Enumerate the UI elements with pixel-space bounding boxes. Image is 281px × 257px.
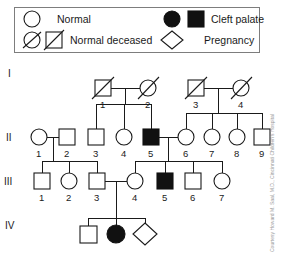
individual-III-4-circle[interactable] (127, 173, 143, 189)
individual-III-5-square-affected[interactable] (157, 173, 173, 189)
legend-diamond-open-icon (161, 31, 183, 49)
pedigree-diagram: Normal Normal deceased Cleft palate Preg… (0, 0, 281, 257)
individual-id-II-7: 7 (209, 148, 214, 159)
generation-label-I: I (8, 68, 11, 79)
individual-II-6-circle[interactable] (178, 129, 194, 145)
individual-id-II-6: 6 (183, 148, 188, 159)
generation-label-II: II (6, 132, 12, 143)
individual-id-II-1: 1 (36, 148, 41, 159)
individual-III-7-circle[interactable] (214, 173, 230, 189)
individual-II-2-square[interactable] (59, 129, 75, 145)
individual-II-9-square[interactable] (254, 129, 270, 145)
individual-id-I-1: 1 (100, 99, 105, 110)
legend-circle-filled-icon (164, 11, 180, 27)
individual-id-II-5: 5 (148, 148, 153, 159)
individual-II-3-square[interactable] (88, 129, 104, 145)
credit-text: Courtesy Howard M. Saal, M.D., Cincinnat… (269, 114, 275, 252)
legend-label-normal: Normal (57, 13, 91, 25)
individual-IV-1-square[interactable] (80, 226, 97, 243)
individual-id-III-6: 6 (190, 192, 195, 203)
legend-label-pregnancy: Pregnancy (204, 34, 255, 46)
individual-II-7-circle[interactable] (204, 129, 220, 145)
generation-II-group: 1 2 3 4 5 6 7 8 9 (31, 129, 270, 159)
individual-id-I-3: 3 (193, 99, 198, 110)
generation-label-III: III (4, 176, 12, 187)
individual-id-III-4: 4 (132, 192, 137, 203)
individual-id-I-4: 4 (238, 99, 243, 110)
generation-III-group: 1 2 3 4 5 6 7 (34, 173, 230, 203)
individual-id-III-1: 1 (39, 192, 44, 203)
legend-label-cleft-palate: Cleft palate (211, 13, 264, 25)
individual-id-III-7: 7 (219, 192, 224, 203)
individual-id-III-2: 2 (66, 192, 71, 203)
individual-III-1-square[interactable] (34, 173, 50, 189)
individual-id-II-3: 3 (93, 148, 98, 159)
legend-label-normal-deceased: Normal deceased (70, 34, 152, 46)
individual-id-II-4: 4 (121, 148, 126, 159)
individual-id-II-8: 8 (234, 148, 239, 159)
generation-I-group: 1 2 3 4 (92, 77, 252, 110)
individual-II-1-circle[interactable] (31, 129, 47, 145)
individual-id-I-2: 2 (145, 99, 150, 110)
individual-II-5-square-affected[interactable] (143, 129, 159, 145)
individual-id-III-3: 3 (94, 192, 99, 203)
individual-III-6-square[interactable] (185, 173, 201, 189)
individual-IV-3-diamond-pregnancy[interactable] (133, 223, 157, 245)
individual-id-II-9: 9 (259, 148, 264, 159)
individual-IV-2-circle-affected[interactable] (107, 225, 125, 243)
generation-IV-group (80, 223, 157, 245)
individual-id-II-2: 2 (64, 148, 69, 159)
individual-III-2-circle[interactable] (61, 173, 77, 189)
pedigree-figure: Normal Normal deceased Cleft palate Preg… (0, 0, 281, 257)
generation-label-IV: IV (5, 220, 15, 231)
individual-id-III-5: 5 (162, 192, 167, 203)
individual-II-8-circle[interactable] (229, 129, 245, 145)
legend-circle-open-icon (24, 11, 40, 27)
individual-III-3-square[interactable] (89, 173, 105, 189)
legend-square-filled-icon (188, 11, 204, 27)
individual-II-4-circle[interactable] (116, 129, 132, 145)
